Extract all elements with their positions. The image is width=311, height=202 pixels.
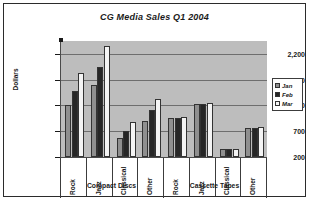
bar-group [216,41,242,157]
bar-mar-6[interactable] [233,149,239,157]
legend: JanFebMar [272,78,303,111]
bar-feb-1[interactable] [97,67,103,157]
bar-jan-3[interactable] [142,121,148,157]
chart-title: CG Media Sales Q1 2004 [4,12,305,22]
group-separator [163,158,164,198]
legend-label: Jan [282,83,292,89]
bar-group [87,41,113,157]
bar-feb-4[interactable] [175,118,181,157]
bar-jan-7[interactable] [245,128,251,157]
group-separator [266,158,267,198]
bar-jan-0[interactable] [65,105,71,157]
bar-mar-1[interactable] [104,46,110,157]
bar-feb-2[interactable] [123,131,129,157]
bar-group [61,41,87,157]
group-label: Cassette Tapes [163,182,266,189]
bar-mar-0[interactable] [78,73,84,157]
bar-feb-7[interactable] [252,128,258,157]
legend-item-jan[interactable]: Jan [275,81,300,90]
bar-feb-0[interactable] [72,91,78,157]
bar-feb-3[interactable] [149,110,155,157]
bar-group [113,41,139,157]
bar-group [138,41,164,157]
bar-group [241,41,267,157]
y-axis-title: Dollars [12,55,19,105]
bar-mar-3[interactable] [155,99,161,157]
group-separator [60,158,61,198]
bar-jan-2[interactable] [117,138,123,157]
legend-swatch-icon [275,92,280,97]
bar-mar-4[interactable] [181,117,187,157]
bar-jan-5[interactable] [194,104,200,157]
legend-swatch-icon [275,101,280,106]
bar-mar-2[interactable] [130,122,136,157]
bar-feb-6[interactable] [226,149,232,157]
legend-swatch-icon [275,83,280,88]
bar-jan-1[interactable] [91,85,97,157]
legend-label: Feb [282,92,293,98]
group-label: Compact Discs [60,182,163,189]
group-axis: Compact DiscsCassette Tapes [60,180,267,198]
bar-jan-4[interactable] [168,118,174,157]
plot-area [60,41,267,158]
bar-group [190,41,216,157]
bar-feb-5[interactable] [200,104,206,157]
bar-mar-7[interactable] [258,127,264,157]
bar-group [164,41,190,157]
legend-item-feb[interactable]: Feb [275,90,300,99]
bar-jan-6[interactable] [220,149,226,157]
chart-frame: CG Media Sales Q1 2004 Dollars 2007001,2… [3,3,306,197]
bar-mar-5[interactable] [207,103,213,157]
legend-label: Mar [282,101,293,107]
legend-item-mar[interactable]: Mar [275,99,300,108]
